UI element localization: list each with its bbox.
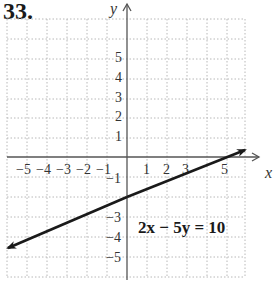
x-axis-label: x xyxy=(264,164,272,181)
svg-text:5: 5 xyxy=(221,162,228,177)
coordinate-plane: y x 5 4 3 2 1 −1 −3 −4 −5 −5 −4 −3 −2 −1… xyxy=(0,0,275,293)
svg-text:−3: −3 xyxy=(56,162,71,177)
svg-text:−3: −3 xyxy=(106,210,121,225)
svg-text:−5: −5 xyxy=(16,162,31,177)
svg-text:−5: −5 xyxy=(106,250,121,265)
svg-text:−4: −4 xyxy=(106,230,121,245)
svg-text:1: 1 xyxy=(115,129,122,144)
axes xyxy=(7,4,259,280)
grid xyxy=(7,19,245,278)
svg-text:5: 5 xyxy=(115,50,122,65)
equation-label: 2x − 5y = 10 xyxy=(138,218,225,237)
svg-text:−2: −2 xyxy=(76,162,91,177)
svg-text:2: 2 xyxy=(115,109,122,124)
svg-text:1: 1 xyxy=(143,162,150,177)
svg-text:−1: −1 xyxy=(96,162,111,177)
y-axis-label: y xyxy=(108,0,118,18)
svg-text:2: 2 xyxy=(163,162,170,177)
svg-text:3: 3 xyxy=(115,90,122,105)
svg-text:−4: −4 xyxy=(36,162,51,177)
svg-text:4: 4 xyxy=(115,70,122,85)
